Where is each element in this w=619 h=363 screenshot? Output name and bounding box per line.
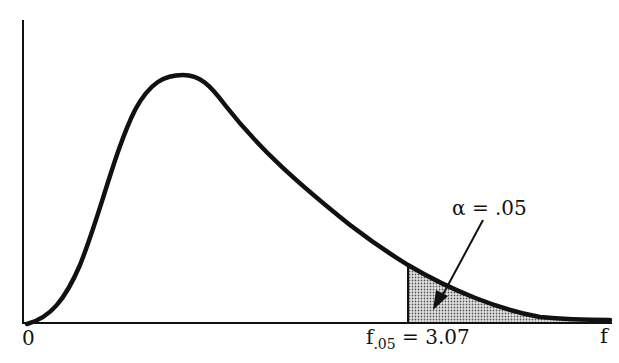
alpha-value: .05 [495, 196, 527, 220]
alpha-symbol: α [452, 196, 466, 220]
critical-equals: = [402, 325, 419, 349]
critical-subscript: .05 [373, 336, 395, 352]
critical-value-label: f.05 = 3.07 [366, 325, 470, 349]
f-distribution-chart [0, 0, 619, 363]
alpha-arrow-shaft [440, 220, 483, 300]
x-origin-label: 0 [22, 326, 35, 350]
critical-number: 3.07 [425, 325, 470, 349]
x-axis-label: f [600, 324, 608, 348]
alpha-label: α = .05 [452, 196, 527, 220]
alpha-equals: = [472, 196, 489, 220]
